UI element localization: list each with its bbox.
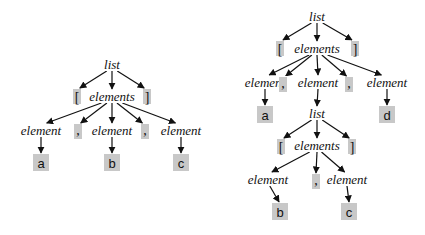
node-list: list — [98, 57, 127, 72]
terminal-b: b — [272, 203, 288, 220]
tree-edge-arrow — [323, 23, 352, 40]
terminal-a: a — [33, 154, 49, 171]
node-list: list — [303, 106, 332, 121]
punct-label: ] — [145, 90, 150, 105]
close-bracket-token: ] — [143, 89, 151, 105]
punct-label: , — [347, 76, 351, 91]
nonterminal-label: list — [309, 106, 325, 121]
comma-token: , — [279, 76, 287, 92]
parse-tree-abc: list[elements]element,element,elementabc — [17, 57, 204, 171]
nonterminal-label: element — [327, 172, 368, 187]
tree-edge-arrow — [269, 55, 309, 75]
punct-label: , — [143, 123, 147, 138]
tree-edge-arrow — [322, 120, 349, 138]
punct-label: , — [281, 76, 285, 91]
terminal-label: c — [346, 205, 353, 220]
tree-edge-arrow — [328, 55, 382, 75]
tree-edge-arrow — [317, 55, 318, 75]
punct-label: , — [76, 123, 80, 138]
node-element: element — [157, 123, 204, 138]
node-list: list — [303, 9, 332, 24]
terminal-c: c — [173, 154, 189, 171]
node-elements: elements — [85, 89, 139, 104]
tree-edge-arrow — [283, 23, 311, 40]
parse-tree-diagram: list[elements]element,element,elementabc… — [0, 0, 425, 235]
nonterminal-label: elements — [89, 89, 134, 104]
nonterminal-label: elements — [294, 138, 339, 153]
nonterminal-label: element — [367, 75, 408, 90]
nonterminal-label: element — [298, 75, 339, 90]
nonterminal-label: element — [161, 123, 202, 138]
tree-edge-arrow — [272, 152, 310, 172]
comma-token: , — [345, 76, 353, 92]
terminal-label: d — [383, 108, 390, 123]
punct-label: [ — [279, 140, 284, 155]
close-bracket-token: ] — [351, 41, 359, 57]
node-elements: elements — [290, 41, 344, 56]
tree-edge-arrow — [322, 55, 347, 76]
close-bracket-token: ] — [348, 139, 356, 155]
open-bracket-token: [ — [277, 139, 285, 155]
tree-edge-arrow — [317, 89, 318, 106]
nonterminal-label: list — [309, 9, 325, 24]
nonterminal-label: list — [104, 57, 120, 72]
tree-edge-arrow — [270, 186, 279, 202]
open-bracket-token: [ — [73, 89, 81, 105]
terminal-c: c — [341, 203, 357, 220]
punct-label: [ — [278, 42, 283, 57]
terminal-d: d — [379, 106, 395, 123]
comma-token: , — [141, 123, 149, 139]
punct-label: , — [314, 173, 318, 188]
node-element: element — [244, 172, 291, 187]
tree-edge-arrow — [117, 71, 144, 88]
punct-label: [ — [75, 90, 80, 105]
node-element: element — [323, 172, 370, 187]
nonterminal-label: element — [248, 172, 289, 187]
tree-edge-arrow — [286, 55, 312, 76]
nonterminal-label: element — [21, 123, 62, 138]
nonterminal-label: elements — [294, 41, 339, 56]
tree-edge-arrow — [322, 152, 345, 172]
terminal-label: a — [37, 156, 45, 171]
nonterminal-label: element — [92, 123, 133, 138]
open-bracket-token: [ — [276, 41, 284, 57]
punct-label: ] — [350, 140, 355, 155]
tree-edge-arrow — [284, 120, 312, 138]
node-elements: elements — [290, 138, 344, 153]
terminal-label: b — [108, 156, 115, 171]
terminal-label: c — [178, 156, 185, 171]
node-element: element — [88, 123, 135, 138]
comma-token: , — [312, 173, 320, 189]
comma-token: , — [74, 123, 82, 139]
terminal-label: a — [261, 108, 269, 123]
tree-edge-arrow — [316, 152, 317, 173]
parse-tree-nested: list[elements]element,element,elementadl… — [241, 9, 410, 220]
terminal-label: b — [276, 205, 283, 220]
terminal-a: a — [257, 106, 273, 123]
node-element: element — [294, 75, 341, 90]
punct-label: ] — [353, 42, 358, 57]
terminal-b: b — [104, 154, 120, 171]
tree-edge-arrow — [347, 186, 349, 202]
tree-edge-arrow — [80, 71, 107, 88]
node-element: element — [363, 75, 410, 90]
node-element: element — [17, 123, 64, 138]
